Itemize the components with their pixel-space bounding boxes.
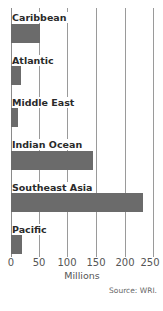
category-label: Pacific [12,224,48,235]
gridline-100 [67,8,68,257]
category-label: Middle East [12,97,75,108]
gridline-0 [11,8,12,257]
category-label: Indian Ocean [12,139,83,150]
bar [11,108,18,127]
gridline-250 [153,8,154,257]
x-tick-label: 150 [86,257,105,268]
x-tick-label: 100 [57,257,76,268]
source-note: Source: WRI. [109,286,157,295]
gridline-50 [39,8,40,257]
bar [11,193,143,212]
bar [11,151,93,170]
bar [11,235,22,254]
gridline-200 [125,8,126,257]
x-tick-label: 50 [33,257,46,268]
category-label: Atlantic [12,55,55,66]
x-tick-label: 200 [115,257,134,268]
gridline-150 [96,8,97,257]
x-tick-label: 250 [140,257,159,268]
x-axis-label: Millions [64,270,100,281]
bar [11,66,21,85]
category-label: Southeast Asia [12,182,93,193]
x-tick-label: 0 [8,257,14,268]
bar [11,24,40,43]
category-label: Caribbean [12,12,68,23]
